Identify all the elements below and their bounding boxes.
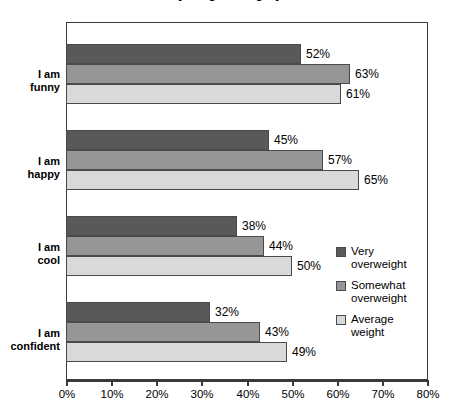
x-axis-tick-label: 50% xyxy=(270,388,316,400)
average-weight-swatch-icon xyxy=(336,315,346,325)
bar-cool-average-weight xyxy=(66,256,292,276)
x-axis-tick xyxy=(382,380,384,386)
legend-label-average-weight: Average weight xyxy=(351,313,394,339)
chart-title: by weight category xyxy=(0,0,453,1)
somewhat-overweight-swatch-icon xyxy=(336,281,346,291)
x-axis-tick xyxy=(427,380,429,386)
bar-confident-very-overweight xyxy=(66,302,210,322)
bar-funny-somewhat-overweight xyxy=(66,64,350,84)
x-axis-tick xyxy=(292,380,294,386)
bar-value-happy-very-overweight: 45% xyxy=(274,130,298,150)
x-axis-tick-label: 0% xyxy=(44,388,90,400)
bar-happy-very-overweight xyxy=(66,130,269,150)
bar-value-cool-somewhat-overweight: 44% xyxy=(269,236,293,256)
legend-item-average-weight: Average weight xyxy=(336,313,424,339)
bar-value-confident-somewhat-overweight: 43% xyxy=(265,322,289,342)
category-label-cool: I am cool xyxy=(0,241,60,267)
bar-value-happy-somewhat-overweight: 57% xyxy=(328,150,352,170)
bar-funny-average-weight xyxy=(66,84,341,104)
x-axis-tick-label: 30% xyxy=(179,388,225,400)
legend-item-somewhat-overweight: Somewhat overweight xyxy=(336,279,424,305)
bar-cool-somewhat-overweight xyxy=(66,236,264,256)
x-axis-tick-label: 40% xyxy=(225,388,271,400)
bar-confident-somewhat-overweight xyxy=(66,322,260,342)
x-axis-tick xyxy=(156,380,158,386)
bar-value-happy-average-weight: 65% xyxy=(364,170,388,190)
x-axis-tick xyxy=(201,380,203,386)
x-axis-tick-label: 80% xyxy=(405,388,451,400)
x-axis-tick-label: 70% xyxy=(360,388,406,400)
x-axis-tick-label: 60% xyxy=(315,388,361,400)
bar-value-funny-very-overweight: 52% xyxy=(306,44,330,64)
bar-value-confident-very-overweight: 32% xyxy=(215,302,239,322)
x-axis-tick-label: 20% xyxy=(134,388,180,400)
bar-funny-very-overweight xyxy=(66,44,301,64)
legend-label-very-overweight: Very overweight xyxy=(351,245,407,271)
chart-legend: Very overweight Somewhat overweight Aver… xyxy=(336,245,424,347)
category-label-happy: I am happy xyxy=(0,155,60,181)
category-label-funny: I am funny xyxy=(0,68,60,94)
bar-happy-average-weight xyxy=(66,170,359,190)
bar-cool-very-overweight xyxy=(66,216,237,236)
bar-value-funny-somewhat-overweight: 63% xyxy=(355,64,379,84)
x-axis-tick xyxy=(337,380,339,386)
legend-item-very-overweight: Very overweight xyxy=(336,245,424,271)
x-axis-tick xyxy=(111,380,113,386)
x-axis-tick xyxy=(66,380,68,386)
very-overweight-swatch-icon xyxy=(336,247,346,257)
x-axis-tick-label: 10% xyxy=(89,388,135,400)
bar-value-funny-average-weight: 61% xyxy=(346,84,370,104)
bar-value-cool-very-overweight: 38% xyxy=(242,216,266,236)
bar-confident-average-weight xyxy=(66,342,287,362)
category-label-confident: I am confident xyxy=(0,327,60,353)
bar-value-cool-average-weight: 50% xyxy=(297,256,321,276)
x-axis-tick xyxy=(247,380,249,386)
bar-happy-somewhat-overweight xyxy=(66,150,323,170)
legend-label-somewhat-overweight: Somewhat overweight xyxy=(351,279,407,305)
bar-value-confident-average-weight: 49% xyxy=(292,342,316,362)
bar-chart: by weight category I am funny 52% 63% 61… xyxy=(0,0,453,419)
